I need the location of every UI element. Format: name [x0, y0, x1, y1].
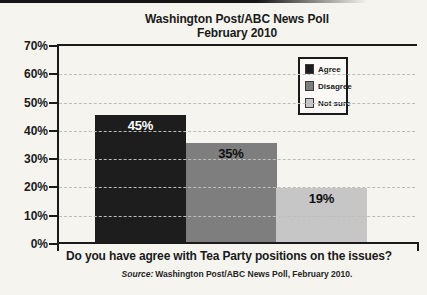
gridline — [59, 216, 415, 217]
y-axis-tick-label: 40% — [6, 124, 48, 138]
bar-value-label-not-sure: 19% — [276, 191, 367, 206]
y-axis-tick-label: 0% — [6, 237, 48, 251]
scan-artifact-line — [0, 0, 368, 3]
source-note: Source:Washington Post/ABC News Poll, Fe… — [57, 269, 417, 279]
y-axis-tick — [49, 130, 57, 132]
y-axis-tick-label: 20% — [6, 180, 48, 194]
legend: Agree Disagree Not sure — [298, 57, 348, 115]
plot-area: 45% 35% 19% Agree Disagree Not sure 70%6 — [57, 44, 417, 244]
legend-label-disagree: Disagree — [318, 82, 352, 91]
y-axis-tick — [49, 158, 57, 160]
bar-agree: 45% — [95, 115, 186, 242]
gridline — [59, 131, 415, 132]
chart-title-line2: February 2010 — [57, 27, 417, 41]
y-axis-tick — [49, 73, 57, 75]
chart-title-line1: Washington Post/ABC News Poll — [57, 13, 417, 27]
source-label: Source: — [122, 269, 154, 279]
poll-bar-chart-figure: Washington Post/ABC News Poll February 2… — [0, 0, 427, 295]
x-axis-line — [57, 242, 419, 244]
y-axis-tick-label: 60% — [6, 67, 48, 81]
chart-title: Washington Post/ABC News Poll February 2… — [57, 13, 417, 40]
disagree-swatch-icon — [305, 81, 314, 91]
source-text: Washington Post/ABC News Poll, February … — [155, 269, 352, 279]
legend-label-agree: Agree — [318, 65, 341, 74]
y-axis-tick — [49, 243, 57, 245]
y-axis-tick — [49, 45, 57, 47]
bar-disagree: 35% — [186, 143, 277, 242]
legend-item-disagree: Disagree — [305, 81, 343, 91]
legend-item-agree: Agree — [305, 64, 343, 74]
y-axis-tick — [49, 102, 57, 104]
y-axis-tick-label: 70% — [6, 39, 48, 53]
y-axis-tick — [49, 186, 57, 188]
x-axis-end-tick — [417, 242, 419, 251]
gridline — [59, 187, 415, 188]
gridline — [59, 103, 415, 104]
agree-swatch-icon — [305, 64, 314, 74]
gridline — [59, 74, 415, 75]
y-axis-tick — [49, 215, 57, 217]
y-axis-tick-label: 30% — [6, 152, 48, 166]
x-axis-question: Do you have agree with Tea Party positio… — [49, 249, 409, 263]
y-axis-tick-label: 10% — [6, 209, 48, 223]
y-axis-tick-label: 50% — [6, 96, 48, 110]
gridline — [59, 159, 415, 160]
